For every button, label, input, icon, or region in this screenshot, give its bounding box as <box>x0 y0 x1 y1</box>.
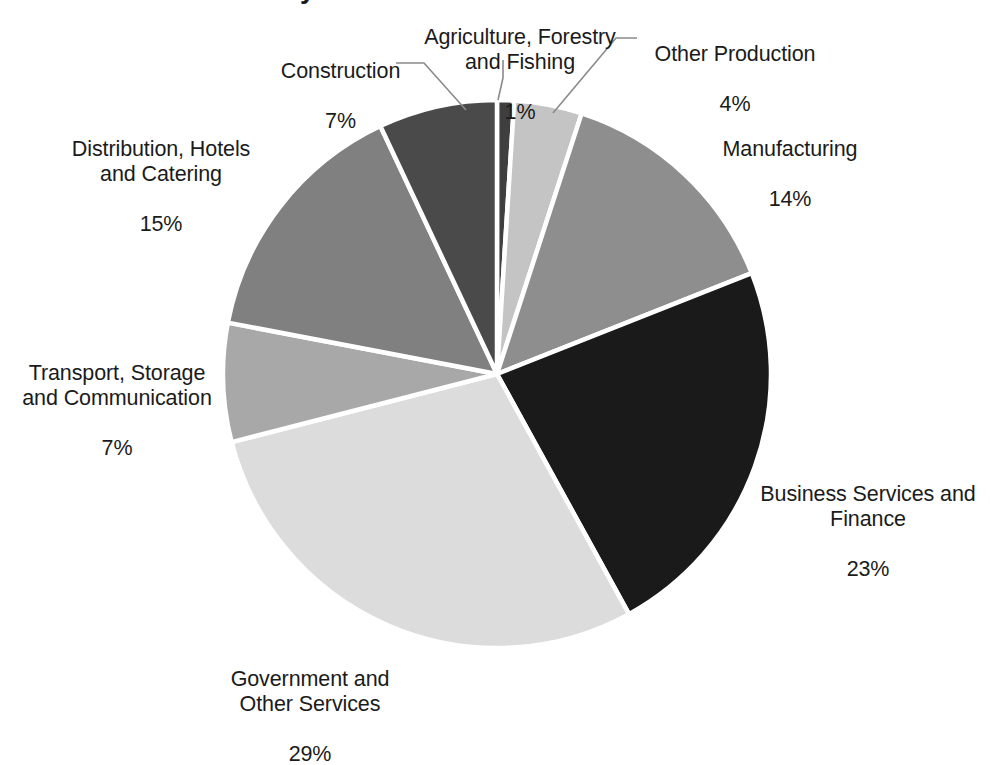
slice-label-government-value: 29% <box>196 742 424 765</box>
slice-label-other-production-name: Other Production <box>630 42 840 67</box>
slice-label-business-services: Business Services and Finance 23% <box>752 457 984 607</box>
slice-label-agriculture-value: 1% <box>400 100 640 125</box>
slice-label-government: Government and Other Services 29% <box>196 642 424 765</box>
slice-label-distribution-value: 15% <box>54 212 268 237</box>
slice-label-transport-value: 7% <box>6 436 228 461</box>
slice-label-transport: Transport, Storage and Communication 7% <box>6 336 228 486</box>
slice-label-agriculture-name: Agriculture, Forestry and Fishing <box>400 25 640 75</box>
slice-label-distribution-name: Distribution, Hotels and Catering <box>54 137 268 187</box>
slice-label-manufacturing-name: Manufacturing <box>660 137 920 162</box>
slice-label-business-services-name: Business Services and Finance <box>752 482 984 532</box>
slice-label-distribution: Distribution, Hotels and Catering 15% <box>54 112 268 262</box>
slice-label-business-services-value: 23% <box>752 557 984 582</box>
slice-label-government-name: Government and Other Services <box>196 667 424 717</box>
slice-label-agriculture: Agriculture, Forestry and Fishing 1% <box>400 0 640 150</box>
slice-label-transport-name: Transport, Storage and Communication <box>6 361 228 411</box>
slice-label-manufacturing-value: 14% <box>660 187 920 212</box>
slice-label-manufacturing: Manufacturing 14% <box>660 112 920 237</box>
